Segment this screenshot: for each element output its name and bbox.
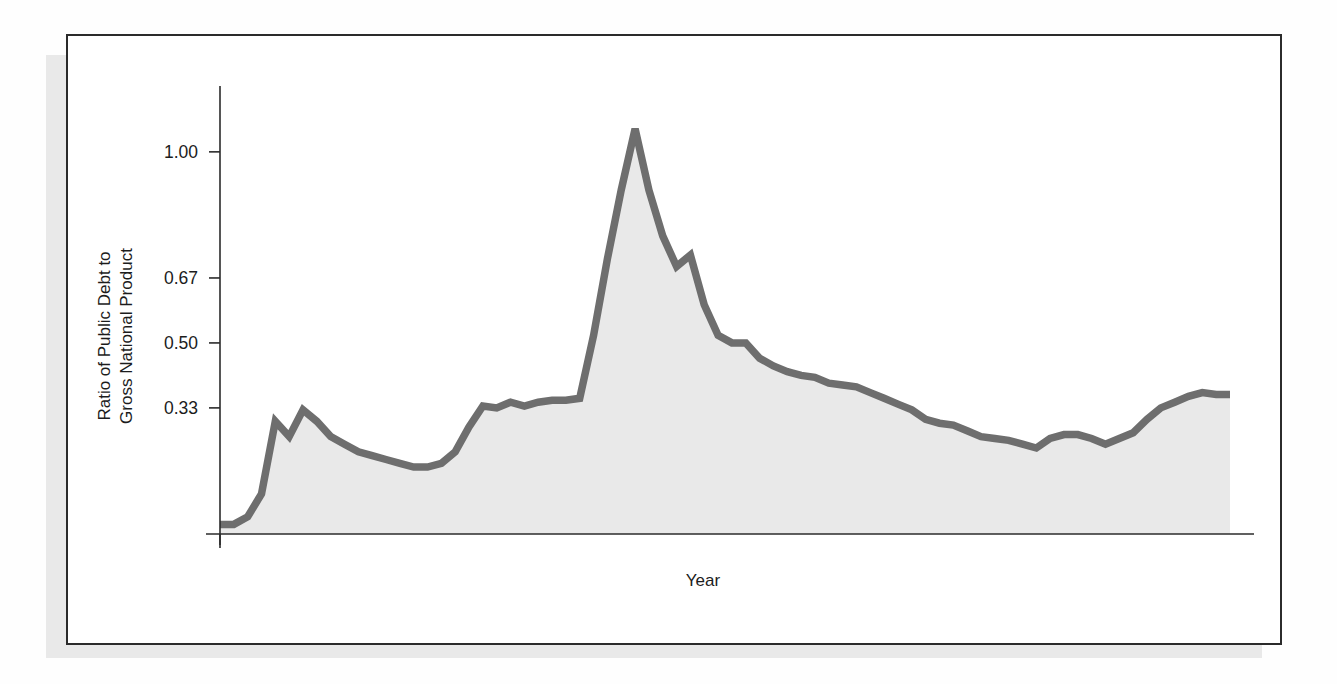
y-tick-label: 0.67 — [164, 268, 198, 288]
y-axis-title-line2: Gross National Product — [117, 248, 136, 424]
debt-to-gnp-area-chart: 0.330.500.671.00 Ratio of Public Debt to… — [68, 36, 1280, 643]
figure-frame: 0.330.500.671.00 Ratio of Public Debt to… — [66, 34, 1282, 645]
series-area-fill — [220, 129, 1230, 534]
y-axis-title: Ratio of Public Debt to Gross National P… — [95, 248, 136, 424]
y-tick-label: 0.33 — [164, 398, 198, 418]
y-axis-title-line1: Ratio of Public Debt to — [95, 251, 114, 420]
y-tick-label: 0.50 — [164, 333, 198, 353]
x-axis-title: Year — [686, 571, 721, 590]
plot-area: 0.330.500.671.00 Ratio of Public Debt to… — [68, 36, 1280, 643]
y-tick-label: 1.00 — [164, 142, 198, 162]
figure-root: 0.330.500.671.00 Ratio of Public Debt to… — [0, 0, 1337, 684]
y-tick-labels: 0.330.500.671.00 — [164, 142, 198, 418]
